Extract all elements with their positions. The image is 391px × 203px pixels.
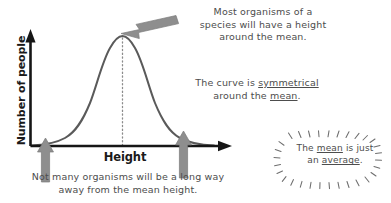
- symmetry-lead: The curve is: [195, 77, 258, 88]
- annotation-peak: Most organisms of a species will have a …: [183, 6, 343, 44]
- symmetry-tail: .: [298, 90, 301, 101]
- mean-tail: .: [360, 155, 363, 165]
- x-axis-arrow-icon: [218, 141, 232, 151]
- peak-callout-arrow-icon: [121, 16, 179, 39]
- mean-emphasis-mean: mean: [317, 143, 343, 153]
- mean-lead: The: [297, 143, 317, 153]
- symmetry-emphasis-symmetrical: symmetrical: [258, 77, 319, 88]
- figure-canvas: Number of people Height Most organisms o…: [0, 0, 391, 203]
- x-axis-label: Height: [82, 150, 168, 164]
- symmetry-emphasis-mean: mean: [270, 90, 298, 101]
- annotation-tails: Not many organisms will be a long way aw…: [8, 171, 248, 196]
- annotation-symmetry: The curve is symmetrical around the mean…: [182, 77, 332, 102]
- y-axis-label: Number of people: [15, 31, 28, 151]
- mean-emphasis-average: average: [322, 155, 360, 165]
- symmetry-middle: around the: [213, 90, 270, 101]
- annotation-mean-definition: The mean is just an average.: [289, 142, 381, 167]
